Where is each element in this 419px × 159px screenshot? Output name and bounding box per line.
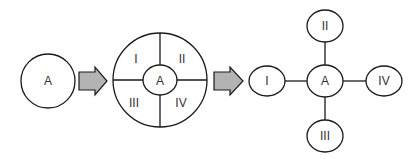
stage1-label: A: [44, 74, 52, 88]
stage2-quadrant-circle: A I II III IV: [113, 33, 207, 127]
quadrant-label-4: IV: [175, 96, 186, 110]
quadrant-label-3: III: [129, 96, 139, 110]
node-left-label: I: [265, 74, 268, 88]
node-bottom-label: III: [320, 129, 330, 143]
stage1-circle: A: [21, 54, 75, 108]
node-top-label: II: [322, 19, 329, 33]
quadrant-label-1: I: [134, 52, 137, 66]
arrow-right-icon: [79, 67, 107, 95]
arrow-right-icon: [214, 67, 243, 95]
node-center-label: A: [321, 74, 329, 88]
diagram-canvas: A A I II III IV A I II III IV: [0, 0, 419, 159]
quadrant-label-2: II: [179, 52, 186, 66]
stage2-center-label: A: [156, 74, 164, 88]
node-right-label: IV: [378, 74, 389, 88]
stage3-network: A I II III IV: [249, 10, 402, 152]
